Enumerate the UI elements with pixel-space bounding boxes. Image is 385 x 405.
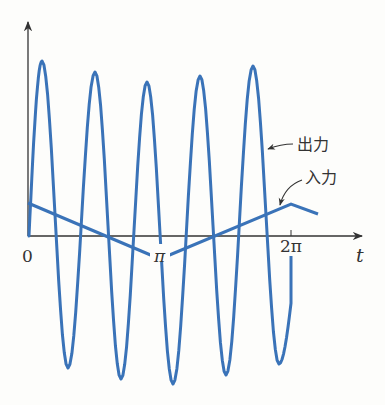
input-label: 入力 <box>305 168 337 187</box>
diagram-canvas: 0 π 2π t 出力 入力 <box>0 0 385 405</box>
input-pointer-arrow <box>280 180 302 205</box>
output-pointer-arrow <box>268 144 293 149</box>
tick-label-2pi: 2π <box>280 236 302 256</box>
figure: 0 π 2π t 出力 入力 <box>0 0 385 405</box>
origin-label: 0 <box>22 246 33 266</box>
output-label: 出力 <box>297 135 329 154</box>
t-axis-label: t <box>356 244 364 266</box>
output-curve <box>29 61 291 384</box>
tick-label-pi: π <box>153 246 166 266</box>
input-curve <box>28 203 318 259</box>
